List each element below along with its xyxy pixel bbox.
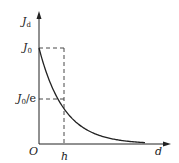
x-tick-h: h [61, 151, 68, 162]
origin-label: O [29, 146, 38, 157]
y-axis-label: Jd [22, 16, 31, 29]
y-tick-j0-over-e: J0/e [17, 93, 36, 106]
x-axis-label: d [155, 146, 162, 157]
y-tick-j0: J0 [23, 42, 32, 55]
x-axis-arrow-icon [163, 142, 171, 147]
y-axis-arrow-icon [37, 11, 42, 19]
decay-curve [39, 48, 145, 143]
